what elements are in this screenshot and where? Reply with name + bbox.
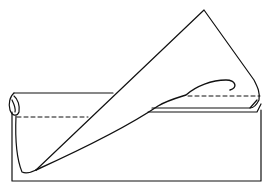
paper-base-rectangle	[12, 110, 261, 181]
folded-triangle-flap	[36, 10, 259, 170]
roll-curl-icon	[9, 93, 19, 115]
left-hanging-edge	[16, 116, 36, 173]
origami-diagram	[0, 0, 267, 189]
